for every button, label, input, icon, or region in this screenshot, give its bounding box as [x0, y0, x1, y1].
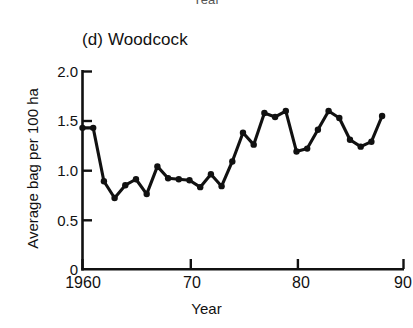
- data-point: [165, 175, 171, 181]
- data-point: [379, 113, 385, 119]
- data-point: [261, 110, 267, 116]
- chart-canvas: [0, 0, 413, 328]
- data-point: [186, 177, 192, 183]
- data-point: [133, 176, 139, 182]
- data-point: [336, 115, 342, 121]
- data-point: [144, 191, 150, 197]
- data-point: [176, 176, 182, 182]
- data-point: [101, 178, 107, 184]
- data-point: [240, 130, 246, 136]
- woodcock-chart-figure: Year (d) Woodcock Average bag per 100 ha…: [0, 0, 413, 328]
- data-point: [79, 125, 85, 131]
- data-point: [293, 148, 299, 154]
- data-point: [208, 171, 214, 177]
- data-point: [358, 143, 364, 149]
- data-point: [229, 158, 235, 164]
- data-markers: [79, 108, 385, 201]
- data-point: [218, 183, 224, 189]
- data-point: [325, 108, 331, 114]
- data-point: [304, 145, 310, 151]
- y-axis-ticks: [83, 72, 93, 221]
- data-point: [111, 195, 117, 201]
- data-point: [251, 141, 257, 147]
- data-point: [315, 127, 321, 133]
- data-point: [154, 163, 160, 169]
- x-axis-ticks: [83, 259, 404, 269]
- data-point: [272, 114, 278, 120]
- axes-spines: [81, 70, 404, 271]
- data-point: [368, 138, 374, 144]
- data-point: [283, 108, 289, 114]
- data-point: [347, 137, 353, 143]
- data-point: [122, 182, 128, 188]
- data-point: [197, 184, 203, 190]
- data-point: [90, 125, 96, 131]
